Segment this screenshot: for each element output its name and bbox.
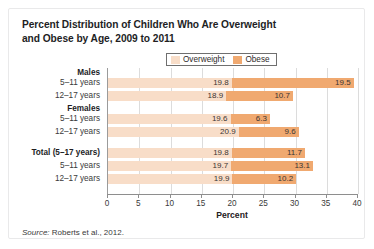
bar-segment-obese: 10.7 [226, 91, 293, 101]
category-label: 12–17 years [0, 128, 104, 136]
bar-segment-overweight: 19.8 [108, 148, 232, 158]
chart-title-line-1: Percent Distribution of Children Who Are… [22, 19, 276, 30]
bar-value-overweight: 20.9 [220, 128, 236, 136]
legend-label-overweight: Overweight [183, 56, 224, 64]
group-header-label: Males [0, 69, 104, 77]
x-tick-label-0: 0 [105, 199, 110, 208]
bar-value-obese: 9.6 [285, 128, 296, 136]
chart-legend: Overweight Obese [166, 53, 277, 66]
x-tick-label-20: 20 [227, 199, 236, 208]
bar-segment-overweight: 18.9 [108, 91, 226, 101]
category-label: 12–17 years [0, 92, 104, 100]
bar-value-overweight: 18.9 [208, 92, 224, 100]
legend-swatch-obese-icon [233, 56, 242, 64]
bar-segment-obese: 6.3 [231, 114, 270, 124]
legend-label-obese: Obese [245, 56, 269, 64]
group-header-label: Females [0, 105, 104, 113]
bar-segment-obese: 9.6 [239, 127, 299, 137]
x-tick-label-40: 40 [352, 199, 361, 208]
bar-segment-obese: 19.5 [232, 78, 354, 88]
bar-value-obese: 19.5 [335, 79, 351, 87]
bar-value-obese: 11.7 [287, 149, 302, 157]
bar-value-obese: 13.1 [294, 162, 310, 170]
x-tick-label-35: 35 [321, 199, 330, 208]
x-tick-30 [295, 194, 296, 198]
x-tick-40 [357, 194, 358, 198]
bar-segment-obese: 13.1 [231, 161, 313, 171]
x-tick-25 [263, 194, 264, 198]
bar-value-obese: 10.2 [278, 175, 294, 183]
gridline-40 [358, 68, 359, 194]
bar-row: 19.910.2 [108, 174, 357, 184]
x-tick-label-15: 15 [196, 199, 205, 208]
category-label: 12–17 years [0, 175, 104, 183]
source-text: Roberts et al., 2012. [52, 228, 124, 237]
bar-row: 19.66.3 [108, 114, 357, 124]
x-tick-5 [138, 194, 139, 198]
legend-item-overweight: Overweight [171, 56, 224, 64]
source-keyword: Source: [22, 228, 50, 237]
bar-row: 19.819.5 [108, 78, 357, 88]
x-tick-35 [326, 194, 327, 198]
category-label: 5–11 years [0, 79, 104, 87]
x-tick-label-30: 30 [290, 199, 299, 208]
x-tick-label-25: 25 [259, 199, 268, 208]
chart-title-line-2: and Obese by Age, 2009 to 2011 [22, 33, 175, 44]
chart-figure: Percent Distribution of Children Who Are… [0, 0, 374, 249]
bar-value-overweight: 19.7 [213, 162, 229, 170]
bar-value-overweight: 19.8 [213, 149, 229, 157]
bar-value-overweight: 19.9 [214, 175, 230, 183]
x-tick-label-10: 10 [165, 199, 174, 208]
legend-item-obese: Obese [233, 56, 269, 64]
x-tick-20 [232, 194, 233, 198]
bar-row: 18.910.7 [108, 91, 357, 101]
bar-segment-overweight: 20.9 [108, 127, 239, 137]
bar-segment-obese: 11.7 [232, 148, 305, 158]
bar-segment-overweight: 19.7 [108, 161, 231, 171]
bar-row: 19.811.7 [108, 148, 357, 158]
x-tick-15 [201, 194, 202, 198]
bar-segment-overweight: 19.8 [108, 78, 232, 88]
category-axis-labels: Males5–11 years12–17 yearsFemales5–11 ye… [0, 68, 104, 194]
legend-swatch-overweight-icon [171, 56, 180, 64]
chart-title: Percent Distribution of Children Who Are… [22, 18, 332, 45]
bar-segment-overweight: 19.9 [108, 174, 232, 184]
bar-value-overweight: 19.8 [213, 79, 229, 87]
bar-row: 19.713.1 [108, 161, 357, 171]
source-note: Source: Roberts et al., 2012. [22, 228, 124, 237]
bar-row: 20.99.6 [108, 127, 357, 137]
bar-value-obese: 6.3 [256, 115, 267, 123]
x-tick-10 [170, 194, 171, 198]
bar-segment-obese: 10.2 [232, 174, 296, 184]
plot-area: 19.819.518.910.719.66.320.99.619.811.719… [107, 68, 357, 194]
x-tick-0 [107, 194, 108, 198]
x-axis-title: Percent [107, 210, 357, 220]
category-label: 5–11 years [0, 115, 104, 123]
bar-value-obese: 10.7 [274, 92, 290, 100]
bar-segment-overweight: 19.6 [108, 114, 231, 124]
x-tick-label-5: 5 [136, 199, 141, 208]
bar-value-overweight: 19.6 [212, 115, 228, 123]
group-header-label: Total (5–17 years) [0, 149, 104, 157]
bar-rows: 19.819.518.910.719.66.320.99.619.811.719… [108, 68, 357, 194]
category-label: 5–11 years [0, 162, 104, 170]
